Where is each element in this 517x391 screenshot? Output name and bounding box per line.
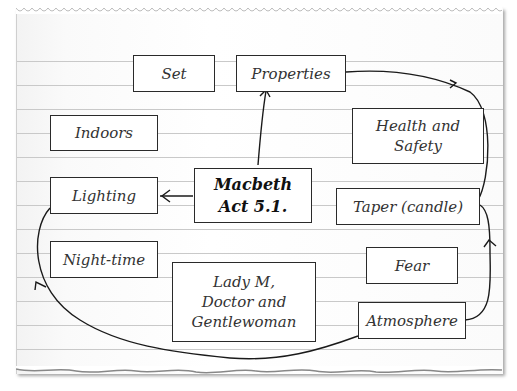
node-lighting[interactable]: Lighting xyxy=(50,177,158,214)
node-indoors[interactable]: Indoors xyxy=(50,115,158,151)
node-set[interactable]: Set xyxy=(133,55,215,92)
node-center-macbeth[interactable]: Macbeth Act 5.1. xyxy=(194,168,312,223)
node-atmosphere[interactable]: Atmosphere xyxy=(358,302,466,339)
node-taper-candle[interactable]: Taper (candle) xyxy=(336,188,480,225)
node-night-time[interactable]: Night-time xyxy=(50,241,158,278)
node-properties[interactable]: Properties xyxy=(236,55,346,92)
edge-macbeth-properties xyxy=(258,91,266,165)
node-lady-m-doctor-gentlewoman[interactable]: Lady M, Doctor and Gentlewoman xyxy=(172,262,316,342)
node-fear[interactable]: Fear xyxy=(366,247,458,284)
node-health-and-safety[interactable]: Health and Safety xyxy=(352,108,484,164)
arrowhead-icon xyxy=(35,282,46,290)
